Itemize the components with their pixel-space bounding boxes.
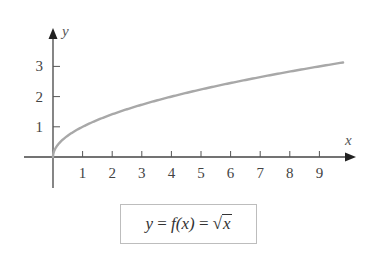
radical-icon: √ [213,214,222,234]
x-tick-label: 1 [79,165,87,181]
x-tick-label: 8 [286,165,294,181]
y-tick-label: 1 [36,119,44,135]
x-tick-label: 5 [197,165,205,181]
x-tick-label: 9 [316,165,324,181]
x-axis-arrow-icon [345,153,356,162]
x-tick-label: 3 [138,165,146,181]
radicand: x [222,214,232,234]
formula-lhs: y [145,214,153,234]
formula-box: y = f (x) = √ x [120,204,257,244]
y-ticks: 123 [36,58,61,134]
y-axis-label: y [60,23,69,39]
y-tick-label: 2 [36,89,44,105]
y-tick-label: 3 [36,58,44,74]
y-axis-arrow-icon [49,28,58,39]
formula-equals-2: = [195,214,213,234]
x-axis-label: x [344,132,352,148]
x-tick-label: 2 [108,165,116,181]
formula-arg: (x) [176,214,195,234]
sqrt-curve [53,62,343,157]
sqrt-chart: 123456789 123 x y [0,0,375,200]
x-tick-label: 7 [256,165,264,181]
x-ticks: 123456789 [79,151,323,181]
formula-equals-1: = [153,214,171,234]
x-tick-label: 4 [168,165,176,181]
x-tick-label: 6 [227,165,235,181]
sqrt-expression: √ x [213,214,232,234]
